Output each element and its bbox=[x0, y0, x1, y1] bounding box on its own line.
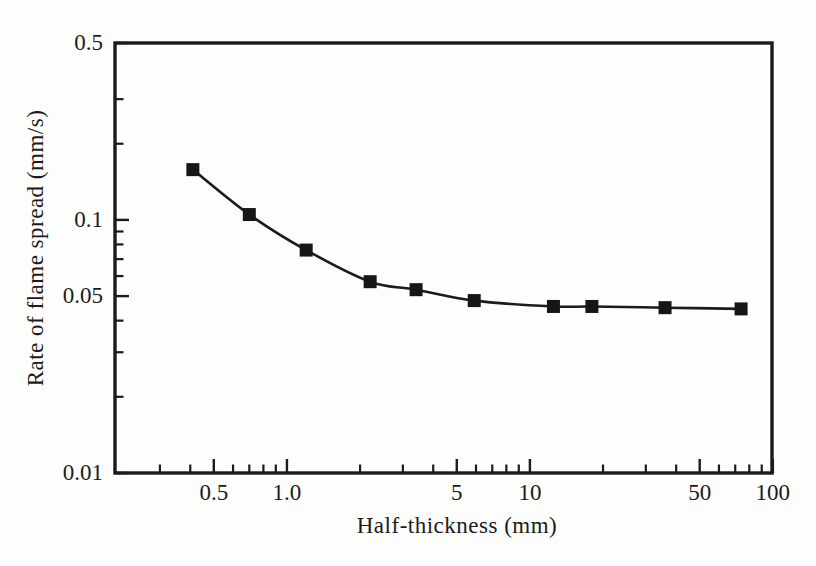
x-tick-label: 5 bbox=[451, 480, 463, 505]
x-tick-label: 10 bbox=[518, 480, 541, 505]
flame-spread-figure: 0.51.0510501000.50.10.050.01 Half-thickn… bbox=[0, 0, 816, 566]
data-point-marker bbox=[186, 163, 199, 176]
y-tick-label: 0.01 bbox=[63, 460, 103, 485]
x-tick-label: 100 bbox=[756, 480, 791, 505]
y-tick-label: 0.05 bbox=[63, 283, 103, 308]
data-point-marker bbox=[364, 275, 377, 288]
data-point-marker bbox=[300, 244, 313, 257]
x-tick-label: 0.5 bbox=[199, 480, 228, 505]
data-point-marker bbox=[243, 208, 256, 221]
chart-canvas: 0.51.0510501000.50.10.050.01 bbox=[0, 0, 816, 566]
y-axis-title: Rate of flame spread (mm/s) bbox=[23, 110, 49, 387]
data-point-marker bbox=[547, 300, 560, 313]
data-point-marker bbox=[585, 300, 598, 313]
x-tick-label: 50 bbox=[688, 480, 711, 505]
data-point-marker bbox=[735, 302, 748, 315]
data-point-marker bbox=[468, 294, 481, 307]
x-tick-label: 1.0 bbox=[273, 480, 302, 505]
series-curve bbox=[193, 170, 741, 309]
data-point-marker bbox=[410, 283, 423, 296]
x-axis-title: Half-thickness (mm) bbox=[357, 513, 557, 539]
plot-border bbox=[115, 43, 772, 473]
y-tick-label: 0.5 bbox=[74, 30, 103, 55]
y-tick-label: 0.1 bbox=[74, 207, 103, 232]
data-point-marker bbox=[659, 301, 672, 314]
